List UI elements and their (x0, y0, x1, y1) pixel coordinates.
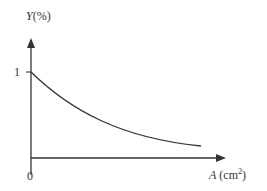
origin-label: 0 (27, 170, 33, 182)
decay-curve (31, 72, 201, 146)
y-axis-label: Y(%) (26, 10, 51, 22)
x-axis-label: A (cm2) (209, 168, 246, 181)
chart-canvas (0, 0, 267, 191)
y-tick-label: 1 (14, 66, 20, 78)
